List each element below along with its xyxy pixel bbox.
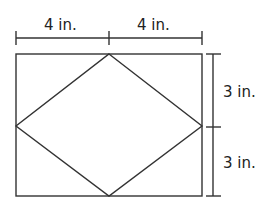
rectangle-rhombus-diagram: 4 in. 4 in. 3 in. 3 in. xyxy=(0,0,271,202)
top-dimension-label-right: 4 in. xyxy=(137,16,170,34)
top-dimension-label-left: 4 in. xyxy=(44,16,77,34)
inscribed-rhombus xyxy=(16,54,202,196)
right-dimension-label-top: 3 in. xyxy=(223,83,256,101)
right-dimension-label-bottom: 3 in. xyxy=(223,154,256,172)
outer-rectangle xyxy=(16,54,202,196)
